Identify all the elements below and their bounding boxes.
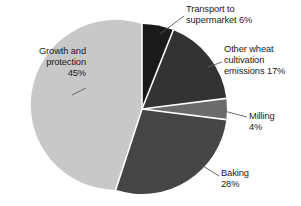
leader-line-milling — [224, 111, 247, 117]
pie-label-milling: Milling 4% — [249, 111, 275, 133]
pie-chart-figure: Transport to supermarket 6% Other wheat … — [0, 0, 301, 206]
pie-label-growth-and-protection: Growth and protection 45% — [8, 46, 86, 80]
pie-chart-graphic — [0, 0, 301, 206]
pie-label-other-wheat-cultivation-emissions: Other wheat cultivation emissions 17% — [224, 44, 285, 78]
leader-line-baking — [203, 166, 219, 176]
pie-label-transport-to-supermarket: Transport to supermarket 6% — [186, 4, 252, 26]
pie-label-baking: Baking 28% — [221, 168, 249, 190]
